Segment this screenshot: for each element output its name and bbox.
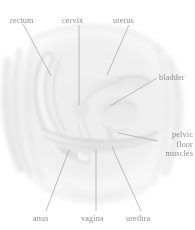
label-anus: anus bbox=[33, 214, 49, 224]
anatomy-figure: rectum cervix uterus bladder pelvic floo… bbox=[0, 0, 195, 230]
label-bladder: bladder bbox=[159, 73, 185, 83]
label-cervix: cervix bbox=[62, 16, 83, 26]
label-pelvic-floor-line-3: muscles bbox=[149, 149, 193, 159]
label-vagina: vagina bbox=[81, 214, 104, 224]
label-uterus: uterus bbox=[113, 16, 134, 26]
label-pelvic-floor-line-1: pelvic bbox=[149, 130, 193, 140]
label-pelvic-floor-muscles: pelvic floor muscles bbox=[149, 130, 193, 159]
label-rectum: rectum bbox=[10, 16, 34, 26]
label-urethra: urethra bbox=[126, 214, 150, 224]
label-pelvic-floor-line-2: floor bbox=[149, 140, 193, 150]
anatomy-illustration bbox=[0, 0, 195, 230]
